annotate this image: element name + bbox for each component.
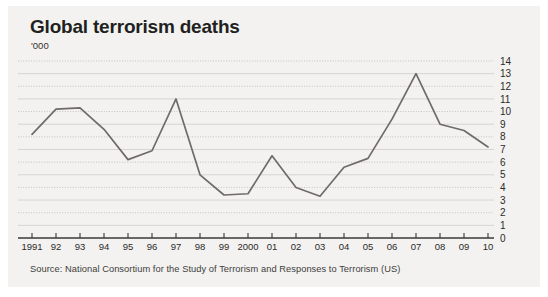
y-axis-tick-label: 4 bbox=[500, 182, 506, 193]
x-axis-tick-label: 95 bbox=[123, 241, 134, 252]
y-axis-tick-label: 14 bbox=[500, 56, 512, 67]
y-axis-tick-label: 3 bbox=[500, 195, 506, 206]
y-axis-tick-label: 5 bbox=[500, 169, 506, 180]
x-axis-tick-label: 03 bbox=[315, 241, 326, 252]
y-axis-tick-label: 6 bbox=[500, 157, 506, 168]
x-axis-tick-label: 07 bbox=[411, 241, 422, 252]
x-axis-tick-label: 97 bbox=[171, 241, 182, 252]
footer-divider bbox=[8, 256, 540, 257]
line-chart-svg: 01234567891011121314 1991929394959697989… bbox=[8, 6, 540, 287]
x-axis-tick-label: 92 bbox=[51, 241, 62, 252]
y-axis-tick-label: 9 bbox=[500, 119, 506, 130]
x-axis-tick-label: 06 bbox=[387, 241, 398, 252]
x-axis-tick-label: 01 bbox=[267, 241, 278, 252]
y-axis-tick-label: 12 bbox=[500, 81, 512, 92]
x-axis-tick-label: 99 bbox=[219, 241, 230, 252]
y-axis-tick-label: 1 bbox=[500, 220, 506, 231]
x-axis-tick-label: 10 bbox=[483, 241, 494, 252]
chart-card: Global terrorism deaths '000 01234567891… bbox=[8, 6, 540, 287]
y-axis-tick-label: 2 bbox=[500, 207, 506, 218]
x-axis-tick-label: 04 bbox=[339, 241, 350, 252]
x-axis-tick-label: 02 bbox=[291, 241, 302, 252]
x-axis-tick-label: 08 bbox=[435, 241, 446, 252]
y-axis-labels-group: 01234567891011121314 bbox=[500, 56, 512, 244]
y-axis-tick-label: 0 bbox=[500, 233, 506, 244]
source-note: Source: National Consortium for the Stud… bbox=[30, 264, 400, 274]
y-axis-tick-label: 13 bbox=[500, 68, 512, 79]
x-axis-labels-group: 1991929394959697989920000102030405060708… bbox=[21, 241, 493, 252]
x-axis-tick-label: 94 bbox=[99, 241, 110, 252]
x-axis-tick-label: 05 bbox=[363, 241, 374, 252]
x-axis-tick-label: 2000 bbox=[237, 241, 258, 252]
x-axis-tick-label: 09 bbox=[459, 241, 470, 252]
data-series-line bbox=[32, 74, 488, 197]
x-axis-tick-label: 98 bbox=[195, 241, 206, 252]
chart-plot-area: 01234567891011121314 1991929394959697989… bbox=[8, 6, 540, 287]
x-axis-tick-label: 96 bbox=[147, 241, 158, 252]
x-axis-tick-label: 93 bbox=[75, 241, 86, 252]
y-axis-tick-label: 11 bbox=[500, 94, 511, 105]
y-axis-tick-label: 8 bbox=[500, 131, 506, 142]
y-axis-tick-label: 10 bbox=[500, 106, 512, 117]
y-axis-tick-label: 7 bbox=[500, 144, 506, 155]
x-axis-tick-label: 1991 bbox=[21, 241, 42, 252]
x-axis-ticks-group bbox=[32, 233, 488, 238]
